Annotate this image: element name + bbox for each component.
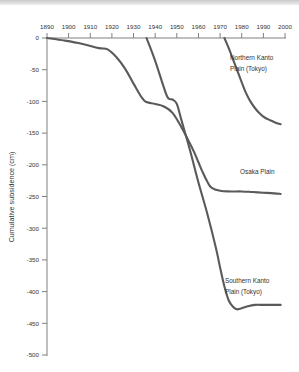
annotation-northern-kanto-line2: Plain (Tokyo): [230, 65, 267, 73]
y-tick-label: -100: [27, 98, 40, 105]
x-tick-label: 1890: [40, 23, 54, 30]
x-tick-label: 1910: [83, 23, 97, 30]
annotation-northern-kanto-line1: Northern Kanto: [230, 54, 274, 61]
x-axis-tick-labels: 1890 1900 1910 1920 1930 1940 1950 1960 …: [40, 23, 292, 30]
x-axis-ticks: [47, 33, 285, 38]
annotation-osaka-plain: Osaka Plain: [240, 168, 275, 175]
y-tick-label: -50: [30, 66, 40, 73]
x-tick-label: 1900: [62, 23, 76, 30]
y-tick-label: -150: [27, 129, 40, 136]
y-axis-ticks: [42, 38, 47, 355]
y-tick-label: -400: [27, 288, 40, 295]
x-tick-label: 1920: [105, 23, 119, 30]
x-tick-label: 1940: [148, 23, 162, 30]
series-annotations: Northern Kanto Plain (Tokyo) Osaka Plain…: [225, 54, 275, 296]
x-tick-label: 1990: [257, 23, 271, 30]
y-tick-label: 0: [36, 34, 40, 41]
y-axis-title: Cumulative subsidence (cm): [7, 152, 16, 243]
y-tick-label: -500: [27, 351, 40, 358]
y-tick-label: -200: [27, 161, 40, 168]
x-tick-label: 1960: [192, 23, 206, 30]
subsidence-chart: 1890 1900 1910 1920 1930 1940 1950 1960 …: [0, 0, 299, 372]
x-tick-label: 1930: [127, 23, 141, 30]
y-tick-label: -250: [27, 193, 40, 200]
x-tick-label: 1980: [235, 23, 249, 30]
x-tick-label: 2000: [278, 23, 292, 30]
annotation-southern-kanto-line2: Plain (Tokyo): [225, 288, 262, 296]
series-line-northern-kanto-plain-tokyo: [224, 38, 280, 124]
annotation-southern-kanto-line1: Southern Kanto: [225, 277, 270, 284]
y-tick-label: -350: [27, 256, 40, 263]
y-tick-label: -300: [27, 225, 40, 232]
chart-svg: 1890 1900 1910 1920 1930 1940 1950 1960 …: [0, 0, 299, 372]
y-tick-label: -450: [27, 320, 40, 327]
x-tick-label: 1970: [213, 23, 227, 30]
y-axis-tick-labels: 0 -50 -100 -150 -200 -250 -300 -350 -400…: [27, 34, 40, 358]
x-tick-label: 1950: [170, 23, 184, 30]
